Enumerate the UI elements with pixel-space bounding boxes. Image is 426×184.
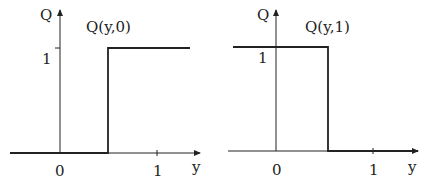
right-panel: Q Q(y,1) 1 0 1 y [228, 6, 418, 179]
right-function-label: Q(y,1) [305, 18, 350, 36]
left-y-tick-label-1: 1 [42, 50, 52, 68]
right-x-tick-label-1: 1 [369, 161, 379, 179]
left-panel: Q Q(y,0) 1 0 1 y [10, 6, 201, 180]
left-x-tick-label-1: 1 [153, 162, 163, 180]
left-x-tick-label-0: 0 [55, 162, 65, 180]
diagram-canvas: Q Q(y,0) 1 0 1 y Q Q(y,1) 1 0 1 y [0, 0, 426, 184]
left-x-axis-label: y [191, 158, 201, 176]
right-y-axis-label: Q [257, 6, 269, 24]
right-x-tick-label-0: 0 [272, 161, 282, 179]
left-function-label: Q(y,0) [86, 18, 131, 36]
right-x-axis-label: y [407, 158, 417, 176]
left-y-axis-label: Q [40, 6, 52, 24]
right-y-tick-label-1: 1 [258, 49, 268, 67]
left-step-curve [10, 48, 190, 153]
